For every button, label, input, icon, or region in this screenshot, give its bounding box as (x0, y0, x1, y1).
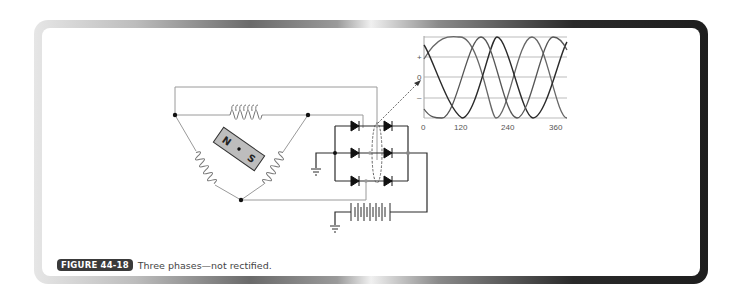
rectifier-bridge (316, 126, 427, 212)
y-label-plus: + (417, 53, 422, 62)
x-tick-360: 360 (549, 123, 563, 132)
junction-phase-3 (364, 179, 368, 183)
junction-right (406, 151, 410, 155)
waveform-phase-c (424, 37, 567, 118)
coil-right (262, 150, 287, 185)
diode-4 (384, 148, 392, 158)
diode-1 (351, 121, 359, 131)
figure-label-badge: FIGURE 44-18 (57, 259, 133, 271)
battery-ground-wire (335, 212, 348, 225)
ground-icon (311, 169, 321, 175)
junction-left (333, 151, 337, 155)
diode-2 (384, 121, 392, 131)
y-label-zero: 0 (417, 73, 422, 82)
waveform-phase-b (424, 37, 567, 118)
x-tick-120: 120 (454, 123, 468, 132)
junction-phase-1 (375, 124, 379, 128)
stator-wiring (175, 87, 377, 200)
node-top-left (173, 113, 177, 117)
y-label-minus: – (417, 93, 422, 102)
waveform-graph: + 0 – 0 120 240 360 (417, 36, 567, 132)
node-top-right (306, 113, 310, 117)
figure-caption-text: Three phases—not rectified. (138, 260, 272, 271)
junction-phase-2 (368, 151, 372, 155)
diode-3 (351, 148, 359, 158)
diode-5 (351, 176, 359, 186)
diode-6 (384, 176, 392, 186)
coil-top (230, 105, 262, 120)
coil-left (193, 150, 218, 185)
x-tick-240: 240 (501, 123, 515, 132)
bar-magnet: N S (213, 127, 264, 170)
ground-icon (330, 226, 340, 232)
battery-icon (348, 203, 394, 221)
node-bottom (239, 198, 243, 202)
pointer-arrow (378, 83, 418, 123)
figure-caption: FIGURE 44-18 Three phases—not rectified. (57, 259, 272, 271)
x-tick-0: 0 (421, 123, 426, 132)
